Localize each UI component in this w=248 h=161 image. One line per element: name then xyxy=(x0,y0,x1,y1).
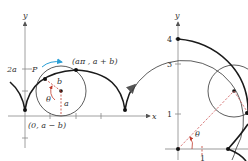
label-theta-left: θ xyxy=(46,95,51,104)
tick-label-4: 4 xyxy=(167,35,172,44)
fixed-circle xyxy=(132,60,244,149)
point-origin-cusp xyxy=(23,108,27,112)
angle-arc-right xyxy=(190,137,193,149)
left-y-axis-label: y xyxy=(22,11,28,20)
label-top-point: (aπ , a + b) xyxy=(72,57,118,66)
tick-label-1-y: 1 xyxy=(167,110,172,119)
right-figure: y 4 3 1 1 θ xyxy=(132,11,248,161)
center-line-dashed xyxy=(178,91,234,149)
label-P: P xyxy=(31,65,38,74)
right-y-axis-label: y xyxy=(174,11,180,20)
tick-label-2a: 2a xyxy=(6,65,17,74)
origin-dot xyxy=(176,147,180,151)
label-a: a xyxy=(64,99,69,108)
tick-label-3: 3 xyxy=(167,60,172,69)
tick-label-1-x: 1 xyxy=(200,154,205,161)
label-b: b xyxy=(57,77,62,86)
start-dot xyxy=(176,37,180,41)
angle-arc xyxy=(51,86,55,100)
point-top xyxy=(74,68,78,72)
contact-dot xyxy=(226,147,230,151)
diagram-canvas: y x 2a P (aπ , a + b) (0, a − b) b xyxy=(0,0,248,161)
label-origin-point: (0, a − b) xyxy=(28,121,66,130)
traced-curve xyxy=(178,39,248,115)
point-right-cusp xyxy=(123,108,127,112)
point-P xyxy=(43,77,47,81)
label-theta-right: θ xyxy=(195,130,200,139)
rolling-circle-right xyxy=(208,65,248,117)
curve-left-segment xyxy=(10,82,25,110)
left-figure: y x 2a P (aπ , a + b) (0, a − b) b xyxy=(6,11,157,148)
left-x-axis-label: x xyxy=(152,112,157,121)
